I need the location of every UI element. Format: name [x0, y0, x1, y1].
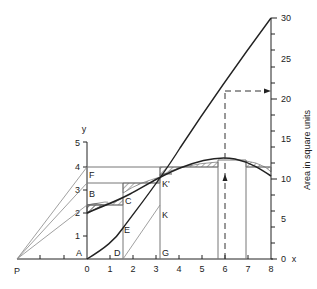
integration-diagram: 0 1 2 3 4 5 6 7 8 x 1 2 3 4 5 y — [0, 0, 317, 289]
label-F: F — [89, 170, 95, 180]
y-axis — [83, 142, 87, 259]
x-tick-1: 1 — [107, 264, 112, 274]
x-tick-8: 8 — [268, 264, 273, 274]
label-K-prime: K' — [162, 179, 170, 189]
area-tick-5: 5 — [281, 214, 286, 224]
area-axis-tick-labels: 0 5 10 15 20 25 30 Area in square units — [281, 13, 312, 264]
area-tick-15: 15 — [281, 134, 291, 144]
integral-curve — [87, 18, 271, 259]
y-tick-2: 2 — [75, 208, 80, 218]
area-tick-20: 20 — [281, 94, 291, 104]
arrow-up-icon — [223, 174, 228, 181]
point-labels: P A B C D E F G K K' — [14, 170, 170, 276]
x-tick-3: 3 — [153, 264, 158, 274]
label-A: A — [76, 248, 82, 258]
x-tick-6: 6 — [222, 264, 227, 274]
arrow-right-icon — [264, 89, 271, 94]
label-B: B — [89, 189, 95, 199]
x-tick-2: 2 — [130, 264, 135, 274]
x-tick-5: 5 — [199, 264, 204, 274]
label-P: P — [14, 266, 20, 276]
step-rectangles — [87, 160, 271, 259]
y-tick-4: 4 — [75, 162, 80, 172]
x-axis-label: x — [292, 254, 297, 264]
area-tick-30: 30 — [281, 13, 291, 23]
area-axis — [271, 18, 277, 259]
rays-from-P — [17, 167, 87, 259]
area-tick-10: 10 — [281, 174, 291, 184]
x-tick-4: 4 — [176, 264, 181, 274]
y-tick-1: 1 — [75, 231, 80, 241]
x-axis — [17, 255, 273, 259]
label-D: D — [114, 248, 121, 258]
area-tick-0: 0 — [281, 254, 286, 264]
x-tick-7: 7 — [245, 264, 250, 274]
area-axis-label: Area in square units — [302, 109, 312, 190]
area-tick-25: 25 — [281, 54, 291, 64]
label-K: K — [162, 210, 168, 220]
y-axis-label: y — [82, 124, 87, 134]
label-E: E — [124, 225, 130, 235]
x-tick-0: 0 — [84, 264, 89, 274]
y-tick-5: 5 — [75, 138, 80, 148]
label-C: C — [125, 196, 132, 206]
label-G: G — [162, 248, 169, 258]
